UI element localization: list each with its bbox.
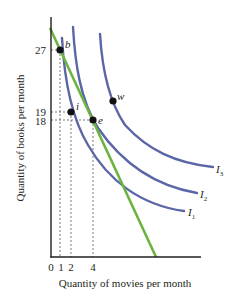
indifference-curve-i2 [73,27,197,193]
point-b-label: b [65,38,71,50]
y-axis-label: Quantity of books per month [14,74,26,202]
point-b [56,46,63,53]
curve-label-i3-sub: 3 [220,170,224,178]
curve-label-i1-sub: 1 [192,213,196,221]
x-tick-2: 2 [68,261,74,273]
point-w [109,97,116,104]
x-tick-4: 4 [90,261,96,273]
point-i-label: i [76,100,79,112]
point-i [67,108,74,115]
point-e-label: e [98,114,103,126]
point-e [89,116,96,123]
x-axis-label: Quantity of movies per month [59,277,192,289]
curve-label-i1: I1 [187,206,196,221]
y-tick-27: 27 [35,44,47,56]
y-tick-18: 18 [35,115,47,127]
curve-label-i2: I2 [199,188,208,203]
curve-label-i3: I3 [215,163,224,178]
x-tick-0: 0 [48,261,54,273]
x-tick-1: 1 [58,261,64,273]
curve-label-i2-sub: 2 [204,195,208,203]
indifference-curve-chart: b i e w 27 19 18 0 1 2 4 I3 I2 I1 Quanti… [0,0,250,301]
guide-lines [51,50,93,257]
point-w-label: w [117,90,125,102]
